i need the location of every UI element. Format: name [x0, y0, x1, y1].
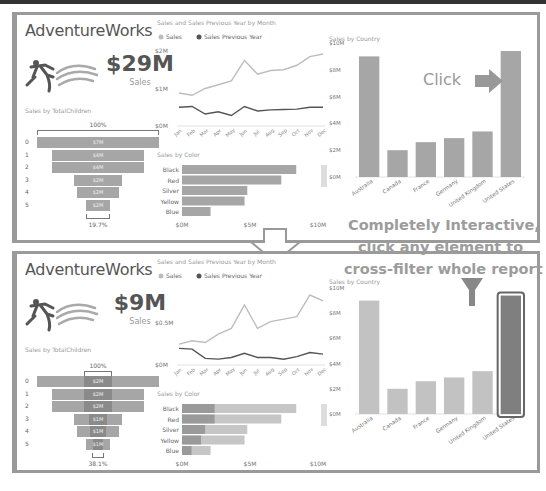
color-category-label: Red [168, 177, 180, 184]
top-border [0, 0, 546, 4]
y-tick-label: $4M [329, 361, 341, 367]
x-tick-label: $10M [310, 460, 327, 467]
month-tick-label: Feb [185, 366, 196, 376]
click-annotation: Click [423, 70, 461, 89]
legend-marker-sales [159, 274, 164, 279]
x-tick-label: $10M [310, 221, 327, 228]
country-bar[interactable] [359, 56, 379, 177]
funnel-row[interactable]: 2$2M [23, 401, 163, 412]
color-category-label: Silver [162, 187, 179, 194]
color-category-label: Black [163, 405, 180, 412]
funnel-value-label: $1M [83, 441, 113, 447]
country-bar[interactable] [416, 142, 436, 177]
callout-line-3: cross-filter whole report [344, 261, 543, 277]
funnel-row[interactable]: 5$1M [23, 439, 163, 450]
color-bar-highlight [182, 436, 201, 445]
color-bar-highlight [182, 404, 215, 413]
country-bar[interactable] [444, 377, 464, 414]
month-tick-label: Sep [277, 366, 289, 377]
funnel-value-label: $2M [83, 189, 113, 195]
funnel-title: Sales by TotalChildren [25, 346, 91, 353]
y-tick-label: $8M [329, 67, 341, 73]
funnel-row[interactable]: 4$2M [23, 187, 163, 198]
funnel-row[interactable]: 1$2M [23, 389, 163, 400]
y-tick-label: $6M [329, 94, 341, 100]
cyclist-logo-icon [23, 53, 103, 95]
funnel-row[interactable]: 0$7M [23, 137, 163, 148]
color-bar[interactable] [182, 165, 296, 174]
y-tick-label: $8M [329, 310, 341, 316]
funnel-row[interactable]: 2$4M [23, 162, 163, 173]
month-tick-label: Aug [264, 127, 276, 139]
funnel-row[interactable]: 3$1M [23, 414, 163, 425]
funnel-chart: 100%0$7M1$4M2$4M3$2M4$2M5$2M19.7% [23, 119, 163, 239]
funnel-row[interactable]: 5$2M [23, 200, 163, 211]
month-tick-label: Sep [277, 127, 289, 138]
funnel-bottom-percent: 38.1% [78, 460, 118, 467]
legend-marker-sales [159, 35, 164, 40]
country-bar[interactable] [387, 389, 407, 414]
funnel-row[interactable]: 1$4M [23, 150, 163, 161]
country-bar[interactable] [416, 381, 436, 414]
y-tick-label: $2M [329, 386, 341, 392]
color-bar[interactable] [182, 207, 211, 216]
funnel-row[interactable]: 4$1M [23, 426, 163, 437]
country-bar[interactable] [472, 371, 492, 414]
sales-line[interactable] [179, 54, 323, 95]
funnel-title: Sales by TotalChildren [25, 107, 91, 114]
country-bar[interactable] [501, 296, 521, 414]
color-bar[interactable] [182, 176, 281, 185]
sales-line[interactable] [179, 295, 323, 344]
country-bar[interactable] [387, 150, 407, 177]
y-tick-label: $6M [329, 335, 341, 341]
month-tick-label: Oct [290, 366, 301, 376]
funnel-bottom-bracket [92, 453, 104, 458]
country-tick-label: Canada [381, 415, 402, 432]
country-tick-label: Germany [435, 414, 460, 435]
y-tick-label: $1M [155, 85, 168, 92]
funnel-value-label: $7M [83, 139, 113, 145]
funnel-category-label: 0 [25, 377, 29, 384]
callout-line-1: Completely Interactive, [348, 217, 540, 233]
legend-marker-prev-year [197, 35, 202, 40]
color-bar[interactable] [182, 197, 245, 206]
funnel-top-bracket [37, 130, 159, 135]
sales-prev-year-line[interactable] [179, 107, 323, 116]
x-tick-label: $5M [244, 460, 257, 467]
country-bar[interactable] [359, 301, 379, 414]
color-chart-title: Sales by Color [157, 151, 200, 158]
month-tick-label: Jul [251, 367, 260, 376]
funnel-value-label: $1M [83, 416, 113, 422]
funnel-category-label: 1 [25, 390, 29, 397]
funnel-bottom-bracket [86, 214, 110, 219]
line-chart: SalesSales Previous Year$2M$1M$0MJanFebM… [153, 29, 333, 143]
funnel-top-percent: 100% [78, 362, 118, 369]
legend-label-prev-year: Sales Previous Year [204, 33, 262, 40]
country-tick-label: France [412, 415, 431, 431]
country-tick-label: Australia [350, 178, 373, 197]
country-tick-label: Canada [381, 178, 402, 195]
month-tick-label: Jan [172, 128, 183, 138]
legend-label-sales: Sales [166, 33, 182, 40]
month-tick-label: Mar [198, 366, 210, 377]
report-title: AdventureWorks [25, 21, 152, 40]
color-bar-highlight [182, 425, 205, 434]
funnel-row[interactable]: 0$2M [23, 376, 163, 387]
country-tick-label: Germany [435, 177, 460, 198]
x-tick-label: $5M [244, 221, 257, 228]
color-bar-chart: BlackRedSilverYellowBlue$0M$5M$10M [153, 400, 333, 480]
funnel-row[interactable]: 3$2M [23, 175, 163, 186]
funnel-value-label: $2M [83, 177, 113, 183]
sales-prev-year-line[interactable] [179, 348, 323, 359]
month-tick-label: Mar [198, 127, 210, 138]
line-chart: SalesSales Previous Year$0.5M$0MJanFebMa… [153, 268, 333, 382]
color-category-label: Yellow [160, 198, 180, 205]
country-bar[interactable] [472, 131, 492, 177]
funnel-value-label: $1M [83, 428, 113, 434]
cyclist-logo-icon [23, 292, 103, 334]
funnel-category-label: 5 [25, 201, 29, 208]
line-chart-title: Sales and Sales Previous Year by Month [157, 19, 276, 26]
color-bar[interactable] [182, 186, 247, 195]
month-tick-label: Nov [303, 127, 314, 138]
country-bar[interactable] [444, 138, 464, 177]
